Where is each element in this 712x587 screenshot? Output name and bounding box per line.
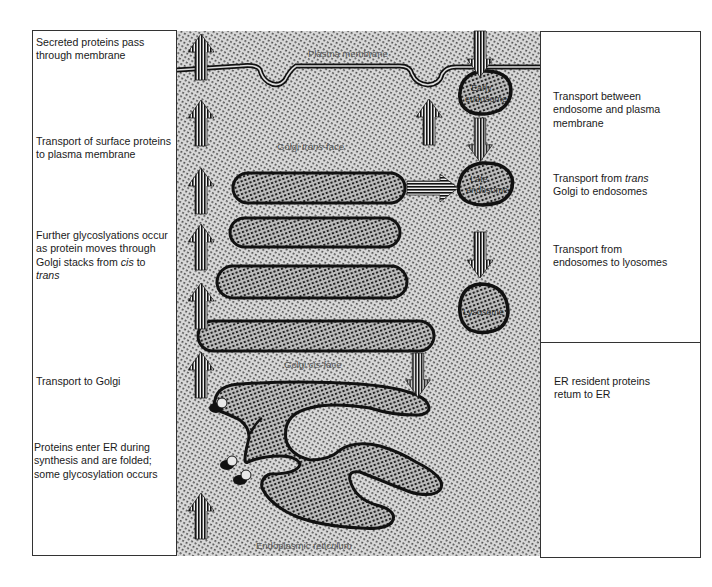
lysosome: Lysosome <box>460 284 508 333</box>
lysosome-label: Lysosome <box>463 307 504 317</box>
golgi-cisterna-cis <box>198 321 434 351</box>
golgi-cisterna-medial-2 <box>217 266 407 298</box>
golgi-cisterna-trans <box>233 173 405 203</box>
early-endosome: Early endosome <box>460 71 511 114</box>
late-endosome-label: Late <box>470 174 488 184</box>
late-endosome: Late endosome <box>458 163 512 205</box>
golgi-cisterna-medial-1 <box>230 218 400 247</box>
plasma-membrane-label: Plasma membrane <box>308 48 388 59</box>
early-endosome-label: endosome <box>465 94 507 104</box>
late-endosome-label: endosome <box>466 185 508 195</box>
er-label: Endoplasmic reticulum <box>256 540 352 551</box>
secretory-pathway-diagram: Plasma membrane Golgi trans-face Golgi c… <box>0 0 712 587</box>
golgi-cis-face-label: Golgi cis-face <box>284 359 342 370</box>
early-endosome-label: Early <box>471 83 492 93</box>
golgi-trans-face-label: Golgi trans-face <box>277 141 344 152</box>
